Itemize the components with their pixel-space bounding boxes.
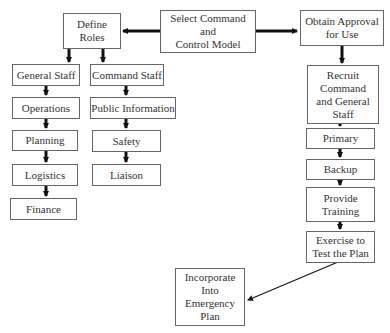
arrow-exercise-to-incorporate: [248, 262, 338, 300]
node-general-staff: General Staff: [12, 64, 80, 86]
node-primary: Primary: [306, 128, 375, 149]
node-liaison: Liaison: [92, 164, 161, 186]
node-obtain-approval: Obtain Approval for Use: [300, 10, 384, 46]
node-recruit-staff: Recruit Command and General Staff: [307, 65, 379, 124]
node-command-staff: Command Staff: [90, 64, 164, 86]
node-logistics: Logistics: [12, 164, 78, 186]
node-planning: Planning: [12, 130, 78, 151]
node-finance: Finance: [10, 198, 77, 220]
node-operations: Operations: [12, 97, 80, 119]
node-incorporate-into-plan: Incorporate Into Emergency Plan: [175, 268, 245, 326]
node-select-command-model: Select Command and Control Model: [160, 10, 256, 53]
node-exercise-test-plan: Exercise to Test the Plan: [306, 231, 375, 263]
node-safety: Safety: [92, 130, 161, 152]
node-backup: Backup: [306, 159, 375, 180]
node-public-information: Public Information: [90, 97, 176, 119]
node-provide-training: Provide Training: [306, 187, 375, 222]
node-define-roles: Define Roles: [63, 13, 121, 49]
